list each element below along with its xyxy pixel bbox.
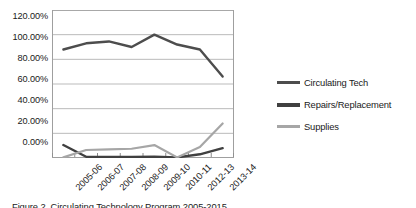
plot-area (52, 10, 234, 158)
y-axis-tick-label: 20.00% (0, 116, 48, 126)
figure-caption: Figure 2. Circulating Technology Program… (12, 201, 227, 208)
legend-item-circulating-tech[interactable]: Circulating Tech (277, 77, 368, 88)
legend-swatch-icon (277, 125, 300, 129)
chart-container: 120.00% 100.00% 80.00% 60.00% 40.00% 20.… (0, 0, 416, 208)
y-axis-tick-label: 40.00% (0, 95, 48, 105)
legend-swatch-icon (277, 81, 300, 85)
y-axis-tick-label: 60.00% (0, 74, 48, 84)
y-axis-tick-label: 0.00% (0, 137, 48, 147)
legend-label: Supplies (304, 121, 339, 132)
legend-swatch-icon (277, 103, 300, 107)
legend-label: Repairs/Replacement (304, 99, 391, 110)
y-axis-tick-label: 80.00% (0, 53, 48, 63)
legend-item-supplies[interactable]: Supplies (277, 121, 339, 132)
y-axis-tick-label: 120.00% (0, 11, 48, 21)
legend-label: Circulating Tech (304, 77, 368, 88)
y-axis-tick-label: 100.00% (0, 32, 48, 42)
legend-item-repairs-replacement[interactable]: Repairs/Replacement (277, 99, 391, 110)
